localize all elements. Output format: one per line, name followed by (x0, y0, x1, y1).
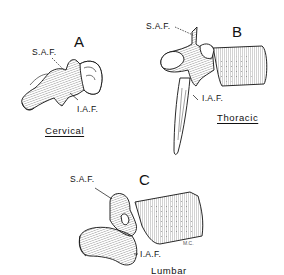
cervical-vertebra-drawing (22, 60, 102, 110)
artist-initials: M.C. (183, 240, 194, 246)
cervical-iaf-label: I.A.F. (77, 105, 98, 114)
panel-letter-a: A (74, 34, 84, 49)
panel-letter-b: B (232, 24, 242, 39)
thoracic-region-title: Thoracic (217, 113, 258, 123)
cervical-region-title: Cervical (45, 126, 84, 136)
cervical-saf-label: S.A.F. (32, 48, 56, 57)
panel-letter-c: C (139, 172, 150, 187)
lumbar-region-title: Lumbar (151, 266, 187, 275)
thoracic-vertebra-drawing (161, 27, 267, 154)
vertebrae-illustration (0, 0, 284, 275)
lumbar-saf-label: S.A.F. (70, 175, 94, 184)
lumbar-iaf-label: I.A.F. (140, 250, 161, 259)
thoracic-saf-label: S.A.F. (146, 22, 170, 31)
thoracic-iaf-label: I.A.F. (202, 94, 223, 103)
